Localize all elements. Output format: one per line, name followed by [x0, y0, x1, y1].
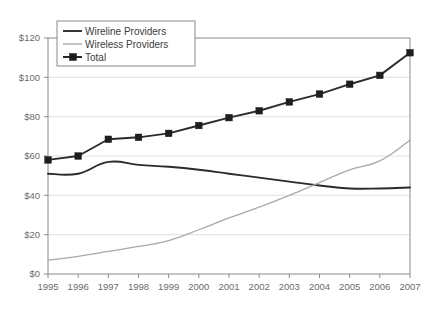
x-tick-label-2005: 2005 — [339, 281, 360, 292]
y-tick-label-80: $80 — [24, 111, 40, 122]
chart-legend: Wireline Providers Wireless Providers To… — [57, 21, 195, 66]
data-point-marker — [135, 134, 142, 141]
data-point-marker — [196, 122, 203, 129]
data-point-marker — [105, 136, 112, 143]
data-point-marker — [316, 91, 323, 98]
x-tick-label-2001: 2001 — [218, 281, 239, 292]
y-tick-label-20: $20 — [24, 229, 40, 240]
y-tick-label-40: $40 — [24, 190, 40, 201]
legend-marker-total — [70, 54, 77, 61]
y-tick-label-60: $60 — [24, 150, 40, 161]
data-point-marker — [75, 153, 82, 160]
data-point-marker — [407, 49, 414, 56]
x-tick-label-2004: 2004 — [309, 281, 330, 292]
figure-container: $0$20$40$60$80$100$120 19951996199719981… — [0, 0, 422, 318]
data-point-marker — [45, 157, 52, 164]
y-tick-label-120: $120 — [19, 32, 40, 43]
data-point-marker — [256, 107, 263, 114]
legend-label-total: Total — [85, 52, 106, 63]
x-tick-label-2003: 2003 — [279, 281, 300, 292]
legend-label-wireless: Wireless Providers — [85, 39, 168, 50]
x-tick-label-1995: 1995 — [37, 281, 58, 292]
data-point-marker — [346, 81, 353, 88]
x-tick-label-1998: 1998 — [128, 281, 149, 292]
line-chart: $0$20$40$60$80$100$120 19951996199719981… — [0, 0, 422, 318]
data-point-marker — [226, 114, 233, 121]
x-tick-label-1999: 1999 — [158, 281, 179, 292]
x-tick-label-2000: 2000 — [188, 281, 209, 292]
x-tick-label-1997: 1997 — [98, 281, 119, 292]
y-tick-label-0: $0 — [29, 268, 40, 279]
x-tick-label-1996: 1996 — [68, 281, 89, 292]
data-point-marker — [286, 99, 293, 106]
x-tick-label-2007: 2007 — [399, 281, 420, 292]
data-point-marker — [165, 130, 172, 137]
y-tick-label-100: $100 — [19, 72, 40, 83]
x-tick-label-2006: 2006 — [369, 281, 390, 292]
data-point-marker — [377, 72, 384, 79]
x-tick-label-2002: 2002 — [249, 281, 270, 292]
legend-label-wireline: Wireline Providers — [85, 26, 166, 37]
